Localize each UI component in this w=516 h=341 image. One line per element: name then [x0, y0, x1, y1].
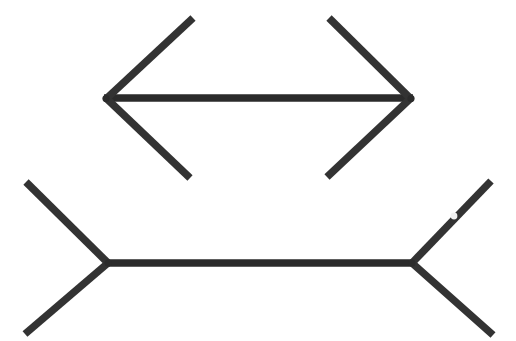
white-dot-marker-icon — [451, 213, 458, 220]
illusion-svg — [0, 0, 516, 341]
illusion-figure-canvas: Muller-Lyer illusion two-horizontal-shaf… — [0, 0, 516, 341]
top-arrow-right-vertex — [407, 95, 414, 102]
bottom-right-junction — [408, 259, 415, 266]
bottom-left-junction — [104, 259, 111, 266]
top-arrow-left-vertex — [102, 95, 109, 102]
